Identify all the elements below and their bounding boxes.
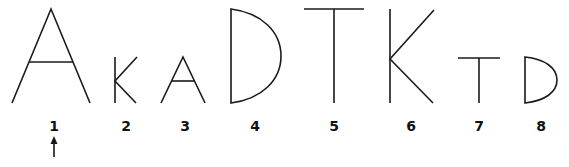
letter-shapes <box>0 0 569 167</box>
glyph-large-a <box>12 9 90 103</box>
glyph-large-t <box>304 9 364 103</box>
item-label-3: 3 <box>170 118 200 134</box>
glyph-small-a <box>161 57 205 103</box>
glyph-small-t <box>458 58 500 103</box>
glyph-large-d <box>231 9 281 103</box>
item-label-7: 7 <box>464 118 494 134</box>
letter-figure: 1 2 3 4 5 6 7 8 <box>0 0 569 167</box>
glyph-small-k <box>115 57 137 103</box>
item-label-1: 1 <box>39 118 69 134</box>
arrow-up-icon <box>51 136 58 157</box>
item-label-6: 6 <box>396 118 426 134</box>
glyph-small-d <box>525 57 557 103</box>
item-label-8: 8 <box>526 118 556 134</box>
item-label-5: 5 <box>319 118 349 134</box>
item-label-2: 2 <box>111 118 141 134</box>
glyph-large-k <box>390 9 434 103</box>
item-label-4: 4 <box>240 118 270 134</box>
